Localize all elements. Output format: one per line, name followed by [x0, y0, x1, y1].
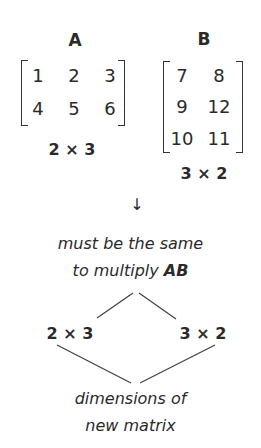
right-dimensions: 3 × 2	[173, 324, 233, 343]
connector-lines	[0, 0, 261, 448]
outer-right-line	[140, 345, 215, 383]
inner-right-line	[139, 293, 176, 319]
inner-left-line	[97, 293, 133, 318]
outer-dimensions-note-line1: dimensions of	[0, 389, 261, 408]
outer-dimensions-note-line2: new matrix	[0, 416, 261, 435]
outer-left-line	[57, 345, 131, 383]
left-dimensions: 2 × 3	[40, 324, 100, 343]
